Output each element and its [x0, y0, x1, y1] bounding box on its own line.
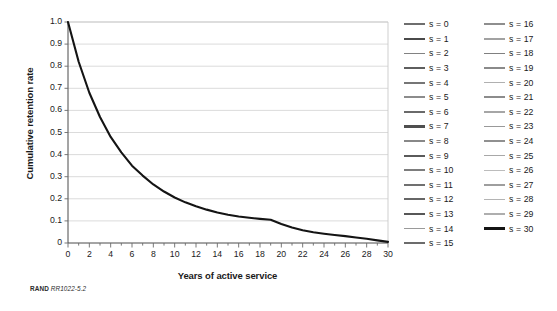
- legend-label: s = 4: [429, 78, 449, 88]
- legend-item[interactable]: s = 27: [484, 178, 554, 193]
- x-tick-label: 26: [334, 250, 356, 259]
- legend-label: s = 8: [429, 136, 449, 146]
- legend-label: s = 17: [509, 34, 534, 44]
- legend-item[interactable]: s = 5: [404, 90, 474, 105]
- legend-label: s = 11: [429, 180, 453, 190]
- legend-swatch-icon: [484, 170, 505, 171]
- legend-swatch-icon: [404, 67, 425, 69]
- x-tick-label: 16: [228, 250, 250, 259]
- chart-legend: s = 0s = 1s = 2s = 3s = 4s = 5s = 6s = 7…: [404, 17, 554, 252]
- legend-swatch-icon: [404, 82, 425, 84]
- legend-swatch-icon: [484, 67, 505, 69]
- legend-swatch-icon: [484, 213, 505, 215]
- x-tick-label: 18: [249, 250, 271, 259]
- legend-item[interactable]: s = 10: [404, 163, 474, 178]
- legend-label: s = 1: [429, 34, 449, 44]
- legend-swatch-icon: [404, 242, 425, 244]
- legend-swatch-icon: [404, 213, 425, 215]
- legend-item[interactable]: s = 9: [404, 148, 474, 163]
- legend-item[interactable]: s = 1: [404, 32, 474, 47]
- legend-label: s = 2: [429, 48, 449, 58]
- legend-label: s = 10: [429, 165, 454, 175]
- x-tick-label: 30: [377, 250, 399, 259]
- legend-swatch-icon: [484, 82, 505, 84]
- source-note: RAND RR1022-5.2: [30, 285, 86, 292]
- legend-item[interactable]: s = 17: [484, 32, 554, 47]
- legend-item[interactable]: s = 26: [484, 163, 554, 178]
- legend-swatch-icon: [404, 53, 425, 55]
- legend-item[interactable]: s = 8: [404, 134, 474, 149]
- legend-item[interactable]: s = 25: [484, 148, 554, 163]
- legend-swatch-icon: [404, 96, 425, 98]
- legend-item[interactable]: s = 15: [404, 236, 474, 251]
- legend-swatch-icon: [404, 228, 425, 230]
- legend-item[interactable]: s = 6: [404, 105, 474, 120]
- legend-item[interactable]: s = 21: [484, 90, 554, 105]
- legend-label: s = 14: [429, 224, 454, 234]
- y-tick-label: 0.9: [28, 39, 62, 48]
- y-tick-label: 0.7: [28, 83, 62, 92]
- legend-item[interactable]: s = 23: [484, 119, 554, 134]
- legend-item[interactable]: s = 20: [484, 75, 554, 90]
- legend-label: s = 22: [509, 107, 534, 117]
- x-tick-label: 22: [292, 250, 314, 259]
- legend-item[interactable]: s = 0: [404, 17, 474, 32]
- legend-swatch-icon: [484, 184, 505, 186]
- legend-swatch-icon: [484, 96, 505, 98]
- legend-item[interactable]: s = 24: [484, 134, 554, 149]
- x-tick-label: 6: [121, 250, 143, 259]
- legend-swatch-icon: [404, 38, 425, 40]
- legend-label: s = 19: [509, 63, 534, 73]
- legend-item[interactable]: s = 29: [484, 207, 554, 222]
- x-tick-label: 2: [78, 250, 100, 259]
- legend-label: s = 12: [429, 194, 454, 204]
- legend-swatch-icon: [404, 140, 425, 142]
- legend-item[interactable]: s = 7: [404, 119, 474, 134]
- legend-item[interactable]: s = 2: [404, 46, 474, 61]
- legend-label: s = 9: [429, 151, 449, 161]
- legend-item[interactable]: s = 16: [484, 17, 554, 32]
- y-tick-label: 0.1: [28, 216, 62, 225]
- legend-swatch-icon: [484, 23, 505, 25]
- x-tick-label: 0: [57, 250, 79, 259]
- x-tick-label: 24: [313, 250, 335, 259]
- legend-swatch-icon: [484, 199, 505, 201]
- x-tick-label: 28: [356, 250, 378, 259]
- legend-item[interactable]: s = 13: [404, 207, 474, 222]
- legend-swatch-icon: [404, 111, 425, 113]
- source-note-code: RR1022-5.2: [51, 285, 86, 292]
- legend-swatch-icon: [484, 111, 505, 113]
- legend-swatch-icon: [484, 140, 505, 142]
- legend-item[interactable]: s = 18: [484, 46, 554, 61]
- legend-label: s = 26: [509, 165, 534, 175]
- legend-item[interactable]: s = 22: [484, 105, 554, 120]
- legend-swatch-icon: [404, 184, 425, 186]
- x-tick-label: 4: [100, 250, 122, 259]
- legend-label: s = 16: [509, 19, 534, 29]
- legend-label: s = 6: [429, 107, 449, 117]
- legend-label: s = 28: [509, 194, 534, 204]
- legend-column-left: s = 0s = 1s = 2s = 3s = 4s = 5s = 6s = 7…: [404, 17, 474, 252]
- legend-item[interactable]: s = 4: [404, 75, 474, 90]
- legend-label: s = 5: [429, 92, 449, 102]
- legend-label: s = 20: [509, 78, 534, 88]
- legend-item[interactable]: s = 30: [484, 221, 554, 236]
- legend-swatch-icon: [484, 155, 505, 157]
- legend-label: s = 25: [509, 151, 534, 161]
- legend-item[interactable]: s = 3: [404, 61, 474, 76]
- legend-swatch-icon: [484, 53, 505, 55]
- legend-label: s = 30: [509, 224, 534, 234]
- retention-rate-figure: Cumulative retention rate Years of activ…: [0, 0, 557, 311]
- x-tick-label: 12: [185, 250, 207, 259]
- x-tick-label: 8: [142, 250, 164, 259]
- y-tick-label: 0.4: [28, 150, 62, 159]
- legend-item[interactable]: s = 28: [484, 192, 554, 207]
- y-tick-label: 0.6: [28, 105, 62, 114]
- legend-item[interactable]: s = 12: [404, 192, 474, 207]
- legend-item[interactable]: s = 19: [484, 61, 554, 76]
- y-tick-label: 1.0: [28, 17, 62, 26]
- legend-label: s = 29: [509, 209, 534, 219]
- legend-label: s = 3: [429, 63, 449, 73]
- legend-item[interactable]: s = 11: [404, 178, 474, 193]
- legend-item[interactable]: s = 14: [404, 221, 474, 236]
